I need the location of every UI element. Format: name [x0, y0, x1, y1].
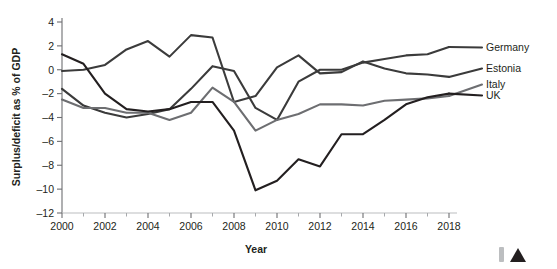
x-tick-label: 2010	[265, 220, 289, 232]
x-tick-label: 2014	[351, 220, 375, 232]
legend-label-uk: UK	[486, 89, 501, 101]
x-tick-label: 2006	[179, 220, 203, 232]
y-tick-label: 2	[48, 40, 54, 52]
legend-label-estonia: Estonia	[486, 62, 521, 74]
x-tick-label: 2002	[93, 220, 117, 232]
x-tick-label: 2018	[437, 220, 461, 232]
y-axis-title: Surplus/deficit as % of GDP	[10, 48, 22, 186]
x-tick-label: 2016	[394, 220, 418, 232]
series-line-uk	[62, 54, 449, 190]
y-tick-label: –8	[42, 159, 54, 171]
chart-page: Surplus/deficit as % of GDP 420–2–4–6–8–…	[0, 0, 557, 269]
x-tick-label: 2004	[136, 220, 160, 232]
legend: GermanyEstoniaItalyUK	[449, 41, 530, 101]
series-line-estonia	[62, 35, 449, 102]
y-tick-label: –2	[42, 87, 54, 99]
legend-label-germany: Germany	[486, 41, 530, 53]
y-axis: 420–2–4–6–8–10–12	[36, 16, 62, 219]
x-tick-label: 2000	[50, 220, 74, 232]
series-line-germany	[62, 47, 449, 120]
y-tick-label: –10	[36, 183, 54, 195]
x-tick-label: 2012	[308, 220, 332, 232]
line-chart: Surplus/deficit as % of GDP 420–2–4–6–8–…	[0, 0, 557, 269]
y-tick-label: –6	[42, 135, 54, 147]
y-tick-label: 4	[48, 16, 54, 28]
y-tick-label: 0	[48, 64, 54, 76]
footer-triangle-mark	[510, 248, 526, 262]
series-lines	[62, 35, 449, 190]
y-tick-label: –12	[36, 207, 54, 219]
footer-bar-mark	[499, 247, 504, 262]
x-axis: 2000200220042006200820102012201420162018	[50, 213, 461, 232]
y-tick-label: –4	[42, 111, 54, 123]
x-axis-title: Year	[245, 243, 267, 255]
legend-leader-estonia	[449, 69, 482, 77]
x-tick-label: 2008	[222, 220, 246, 232]
